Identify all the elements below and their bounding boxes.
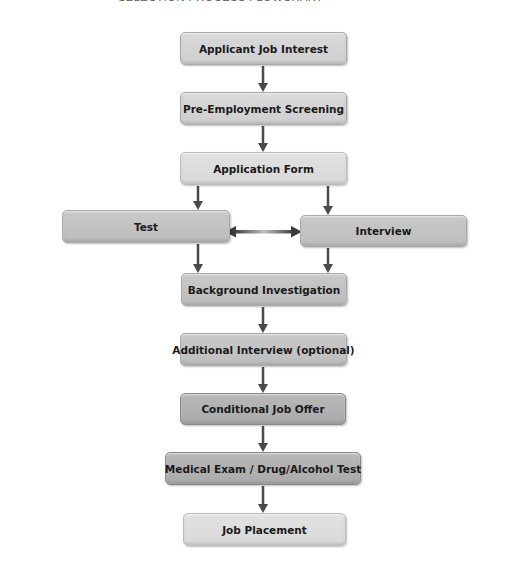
node-label: Test (134, 221, 158, 233)
node-label: Pre-Employment Screening (183, 103, 344, 115)
node-additional-interview: Additional Interview (optional) (180, 333, 347, 366)
node-conditional-job-offer: Conditional Job Offer (180, 393, 346, 425)
node-medical-exam: Medical Exam / Drug/Alcohol Test (165, 452, 361, 485)
node-label: Interview (356, 225, 412, 237)
node-label: Background Investigation (188, 284, 340, 296)
node-label: Applicant Job Interest (199, 43, 328, 55)
node-background-investigation: Background Investigation (181, 273, 347, 306)
node-applicant-job-interest: Applicant Job Interest (180, 32, 347, 65)
node-label: Medical Exam / Drug/Alcohol Test (165, 463, 361, 475)
node-label: Application Form (213, 163, 314, 175)
node-label: Job Placement (222, 524, 307, 536)
node-test: Test (62, 210, 230, 243)
arrow-down-icon (258, 83, 268, 92)
node-label: Conditional Job Offer (201, 403, 324, 415)
node-application-form: Application Form (180, 152, 347, 185)
double-arrow-icon (225, 226, 302, 238)
node-pre-employment-screening: Pre-Employment Screening (180, 92, 347, 125)
node-interview: Interview (300, 215, 467, 247)
node-label: Additional Interview (optional) (172, 344, 354, 356)
node-job-placement: Job Placement (183, 513, 346, 546)
